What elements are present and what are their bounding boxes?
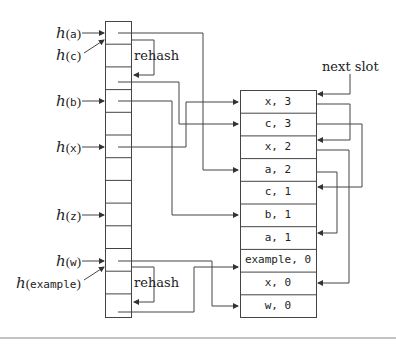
hash-table-diagram: h(a) h(c) h(b) h(x) h(z) h(w) h(example)… (0, 0, 396, 344)
entry-cell: x, 3 (240, 91, 316, 114)
entry-cell: a, 1 (240, 227, 316, 250)
hash-label-b: h(b) (56, 94, 81, 110)
entry-cell: c, 1 (240, 181, 316, 204)
rehash-label-bottom: rehash (134, 275, 179, 290)
hash-label-c: h(c) (56, 48, 81, 64)
hash-label-z: h(z) (56, 208, 81, 224)
entry-cell: a, 2 (240, 159, 316, 182)
entry-cell: b, 1 (240, 204, 316, 227)
hash-label-a: h(a) (56, 26, 81, 42)
hash-label-w: h(w) (56, 254, 81, 270)
rehash-label-top: rehash (134, 48, 179, 63)
hash-label-example: h(example) (16, 276, 81, 292)
entry-cell: w, 0 (240, 295, 316, 318)
entry-cell: example, 0 (240, 249, 316, 272)
hash-label-x: h(x) (56, 140, 81, 156)
entry-cell: c, 3 (240, 113, 316, 136)
next-slot-label: next slot (322, 59, 379, 74)
entry-cell: x, 0 (240, 272, 316, 295)
entry-cell: x, 2 (240, 136, 316, 159)
